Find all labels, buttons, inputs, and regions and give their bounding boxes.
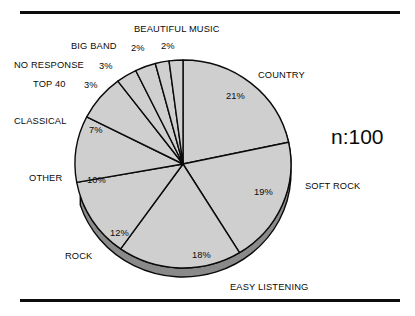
pie-label-top-40: TOP 40	[33, 80, 66, 89]
pie-value-soft-rock: 19%	[254, 188, 273, 197]
pie-label-other: OTHER	[29, 174, 62, 183]
pie-value-top-40: 3%	[84, 81, 98, 90]
pie-value-beautiful-music: 2%	[161, 42, 175, 51]
pie-label-country: COUNTRY	[258, 71, 305, 80]
chart-page: BEAUTIFUL MUSIC BIG BAND NO RESPONSE TOP…	[0, 0, 415, 316]
pie-value-no-response: 3%	[99, 62, 113, 71]
sample-size-annotation: n:100	[331, 126, 384, 147]
pie-label-rock: ROCK	[65, 252, 92, 261]
pie-label-soft-rock: SOFT ROCK	[305, 182, 360, 191]
pie-label-easy-listening: EASY LISTENING	[230, 283, 308, 292]
pie-value-easy-listening: 18%	[192, 251, 211, 260]
pie-label-classical: CLASSICAL	[14, 117, 67, 126]
pie-label-no-response: NO RESPONSE	[14, 61, 84, 70]
pie-value-other: 10%	[87, 176, 106, 185]
pie-chart-graphic	[0, 0, 415, 316]
pie-slices-group	[75, 60, 291, 268]
pie-value-big-band: 2%	[131, 44, 145, 53]
pie-value-rock: 12%	[110, 229, 129, 238]
pie-value-country: 21%	[226, 92, 245, 101]
pie-label-beautiful-music: BEAUTIFUL MUSIC	[134, 25, 220, 34]
pie-label-big-band: BIG BAND	[71, 42, 117, 51]
pie-value-classical: 7%	[89, 126, 103, 135]
